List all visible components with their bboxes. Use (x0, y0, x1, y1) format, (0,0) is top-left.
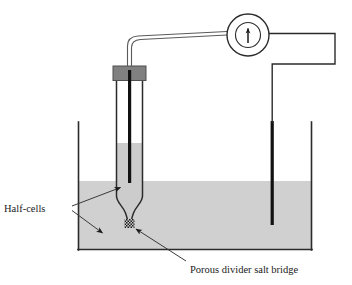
half-cells-label: Half-cells (4, 203, 45, 214)
wire-right-path (269, 34, 335, 124)
right-electrode (271, 121, 274, 225)
current-meter[interactable] (227, 14, 269, 56)
electrochemical-cell-figure: Half-cells Porous divider salt bridge (0, 0, 352, 285)
diagram-canvas: Half-cells Porous divider salt bridge (0, 0, 352, 285)
wire-to-meter-left (128, 32, 228, 67)
porous-divider-label: Porous divider salt bridge (190, 264, 299, 275)
wire-left-strand-a (128, 32, 228, 67)
porous-divider-hatch (125, 219, 135, 228)
wire-to-meter-right (269, 34, 335, 124)
wire-left-strand-b (132, 35, 228, 66)
beaker-liquid (79, 181, 311, 250)
beaker-liquid-group (79, 181, 311, 250)
left-electrode (128, 70, 131, 183)
